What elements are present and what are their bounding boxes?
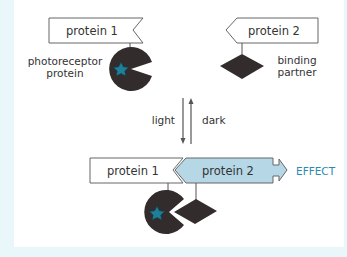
binding-partner-label-line2: partner: [278, 66, 318, 78]
protein1-bound-label: protein 1: [107, 164, 159, 178]
protein2-bound-label: protein 2: [202, 164, 254, 178]
photoreceptor-label-line2: protein: [46, 67, 83, 79]
light-label: light: [152, 114, 175, 126]
optogenetic-dimerization-diagram: protein 1 photoreceptor protein protein …: [0, 0, 347, 257]
dark-label: dark: [202, 114, 226, 126]
protein2-label: protein 2: [248, 24, 300, 38]
binding-partner-label-line1: binding: [277, 54, 316, 66]
effect-label: EFFECT: [296, 165, 336, 177]
protein1-label: protein 1: [66, 24, 118, 38]
photoreceptor-label-line1: photoreceptor: [28, 55, 103, 67]
